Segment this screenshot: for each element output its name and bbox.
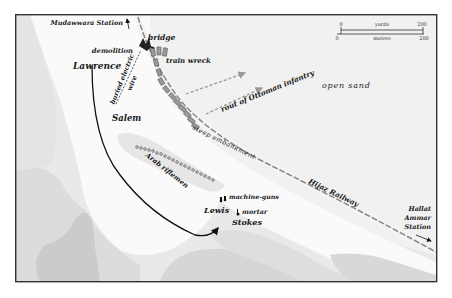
scale-yards-end: 200	[417, 21, 427, 27]
terrain	[16, 15, 436, 281]
label-lewis: Lewis	[203, 205, 230, 215]
label-station: Station	[405, 223, 432, 231]
scale-yards-label: yards	[374, 21, 389, 28]
label-mortar: mortar	[242, 208, 268, 216]
label-mudawwara-station: Mudawwara Station	[50, 19, 124, 27]
label-train-wreck: train wreck	[166, 56, 211, 65]
scale-metres-start: 0	[335, 35, 338, 41]
label-open-sand: open sand	[322, 81, 371, 90]
label-salem: Salem	[112, 113, 141, 123]
label-ammar: Ammar	[404, 214, 432, 222]
battle-map: 0 yards 200 0 metres 200 Mudawwara Stati…	[0, 0, 452, 298]
scale-yards-start: 0	[339, 21, 342, 27]
scale-metres-end: 200	[419, 35, 429, 41]
label-lawrence: Lawrence	[72, 61, 121, 71]
scale-metres-label: metres	[373, 35, 391, 41]
label-hallat: Hallat	[407, 205, 431, 213]
label-stokes: Stokes	[232, 217, 262, 227]
label-demolition: demolition	[92, 47, 133, 55]
label-machine-guns: machine-guns	[229, 193, 279, 201]
label-bridge: bridge	[148, 33, 176, 42]
